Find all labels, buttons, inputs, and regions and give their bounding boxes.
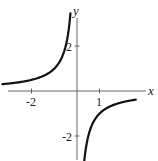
x-axis-label: x	[147, 83, 154, 98]
chart-canvas: -2 1 2 -2 x y	[0, 0, 158, 161]
y-tick-label-neg2: -2	[62, 130, 72, 144]
x-tick-label-1: 1	[96, 95, 102, 109]
curve-right-branch	[84, 100, 136, 161]
curve-left-branch	[2, 13, 70, 84]
x-tick-label-neg2: -2	[26, 95, 36, 109]
y-axis-label: y	[71, 3, 79, 18]
